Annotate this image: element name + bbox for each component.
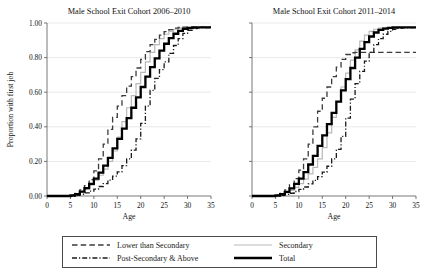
x-tick-label: 5 [274, 201, 278, 210]
legend-item[interactable]: Secondary [233, 240, 313, 250]
series-line-lower-than-secondary [252, 52, 416, 196]
legend-item-label: Total [279, 254, 295, 263]
panel-title: Male School Exit Cohort 2006–2010 [68, 7, 191, 16]
legend-box: Lower than SecondarySecondaryPost-Second… [62, 236, 377, 268]
chart-panel-1: Male School Exit Cohort 2006–20100.000.2… [6, 7, 215, 221]
x-tick-label: 0 [250, 201, 254, 210]
y-tick-label: 0.20 [29, 157, 42, 166]
series-line-secondary [47, 28, 211, 197]
y-tick-label: 0.60 [29, 88, 42, 97]
x-tick-label: 5 [69, 201, 73, 210]
y-tick-label: 0.00 [29, 192, 42, 201]
series-line-post-secondary-above [47, 28, 211, 197]
legend-swatch-dashdot [71, 253, 111, 263]
y-tick-label: 0.80 [29, 53, 42, 62]
x-tick-label: 15 [319, 201, 327, 210]
x-tick-label: 0 [45, 201, 49, 210]
legend-item-label: Post-Secondary & Above [117, 254, 198, 263]
y-tick-label: 1.00 [29, 19, 42, 28]
x-axis-title: Age [123, 212, 137, 221]
y-tick-label: 0.40 [29, 122, 42, 131]
x-tick-label: 10 [295, 201, 303, 210]
series-line-total [47, 27, 211, 196]
figure-root: Male School Exit Cohort 2006–20100.000.2… [0, 0, 440, 280]
x-tick-label: 10 [90, 201, 98, 210]
x-tick-label: 35 [207, 201, 215, 210]
x-tick-label: 25 [160, 201, 168, 210]
x-tick-label: 20 [342, 201, 350, 210]
legend-item[interactable]: Lower than Secondary [71, 240, 189, 250]
legend-swatch-dashed [71, 240, 111, 250]
legend-item[interactable]: Total [233, 253, 295, 263]
x-tick-label: 25 [365, 201, 373, 210]
legend-swatch-solid [233, 240, 273, 250]
x-tick-label: 15 [114, 201, 122, 210]
x-tick-label: 20 [137, 201, 145, 210]
legend-item-label: Lower than Secondary [117, 241, 189, 250]
y-axis-title: Proportion with first job [6, 72, 15, 148]
x-tick-label: 35 [412, 201, 420, 210]
legend-item[interactable]: Post-Secondary & Above [71, 253, 198, 263]
panel-title: Male School Exit Cohort 2011–2014 [273, 7, 396, 16]
x-axis-title: Age [328, 212, 342, 221]
legend-swatch-solid [233, 253, 273, 263]
legend-item-label: Secondary [279, 241, 313, 250]
chart-panel-2: Male School Exit Cohort 2011–20140510152… [249, 7, 420, 221]
series-line-lower-than-secondary [47, 27, 211, 196]
x-tick-label: 30 [184, 201, 192, 210]
x-tick-label: 30 [389, 201, 397, 210]
